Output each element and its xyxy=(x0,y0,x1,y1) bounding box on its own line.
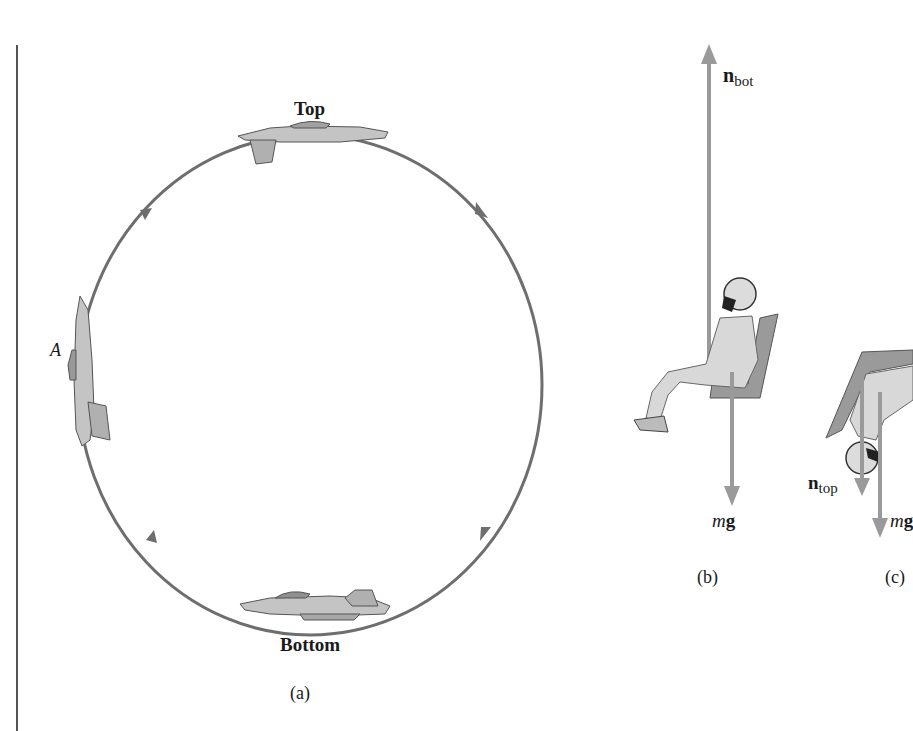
n-symbol: n xyxy=(723,64,734,86)
jet-bottom-icon xyxy=(240,590,390,620)
label-bottom: Bottom xyxy=(280,634,340,656)
m-symbol: m xyxy=(712,510,726,531)
m-symbol: m xyxy=(890,510,904,531)
arrow-lower-right-icon xyxy=(480,527,491,541)
label-top: Top xyxy=(294,98,325,120)
caption-b: (b) xyxy=(697,567,718,588)
caption-c: (c) xyxy=(885,567,905,588)
label-point-a: A xyxy=(50,340,61,361)
label-mg-c: mg xyxy=(890,510,913,532)
caption-a: (a) xyxy=(290,683,310,704)
arrow-lower-left-icon xyxy=(146,530,157,543)
arrow-upper-right-icon xyxy=(475,202,488,218)
n-subscript: bot xyxy=(734,73,753,89)
g-symbol: g xyxy=(904,510,913,531)
jet-left-icon xyxy=(68,296,110,446)
pilot-inverted-icon xyxy=(826,350,913,474)
loop-direction-arrows xyxy=(140,202,491,543)
label-n-bot: nbot xyxy=(723,64,753,87)
n-subscript: top xyxy=(819,480,838,496)
label-mg-b: mg xyxy=(712,510,735,532)
diagram-canvas xyxy=(0,0,913,731)
n-symbol: n xyxy=(808,472,819,493)
label-n-top: ntop xyxy=(808,472,838,494)
pilot-seated-upright-icon xyxy=(634,278,778,432)
g-symbol: g xyxy=(726,510,736,531)
force-n-bot-arrow xyxy=(701,44,717,372)
